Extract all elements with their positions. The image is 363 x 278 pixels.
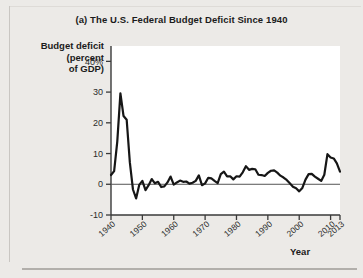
x-axis-tick-label: 1960	[159, 219, 180, 239]
y-axis-tick-marks	[106, 61, 111, 215]
chart-svg: 40%3020100-10 19401950196019701980199020…	[0, 0, 363, 278]
x-axis-tick-label: 1980	[222, 219, 243, 239]
x-axis-tick-label: 1990	[253, 219, 274, 239]
x-axis-tick-label: 2000	[285, 219, 306, 239]
y-axis-tick-label: 0	[98, 179, 103, 189]
y-axis-tick-label: 20	[93, 118, 103, 128]
x-axis-tick-label: 1940	[96, 219, 117, 239]
y-axis-tick-label: 40%	[85, 57, 103, 67]
x-axis-tick-label: 1970	[190, 219, 211, 239]
x-axis-label: Year	[290, 246, 310, 257]
footer-rule	[22, 268, 357, 270]
x-axis-tick-marks	[111, 215, 340, 220]
x-axis-tick-labels: 194019501960197019801990200020102013	[96, 219, 346, 239]
x-axis-tick-label: 1950	[128, 219, 149, 239]
y-axis-tick-label: -10	[90, 210, 103, 220]
y-axis-tick-label: 30	[93, 87, 103, 97]
y-axis-tick-labels: 40%3020100-10	[85, 57, 103, 221]
figure-panel: (a) The U.S. Federal Budget Deficit Sinc…	[0, 0, 363, 278]
y-axis-tick-label: 10	[93, 149, 103, 159]
